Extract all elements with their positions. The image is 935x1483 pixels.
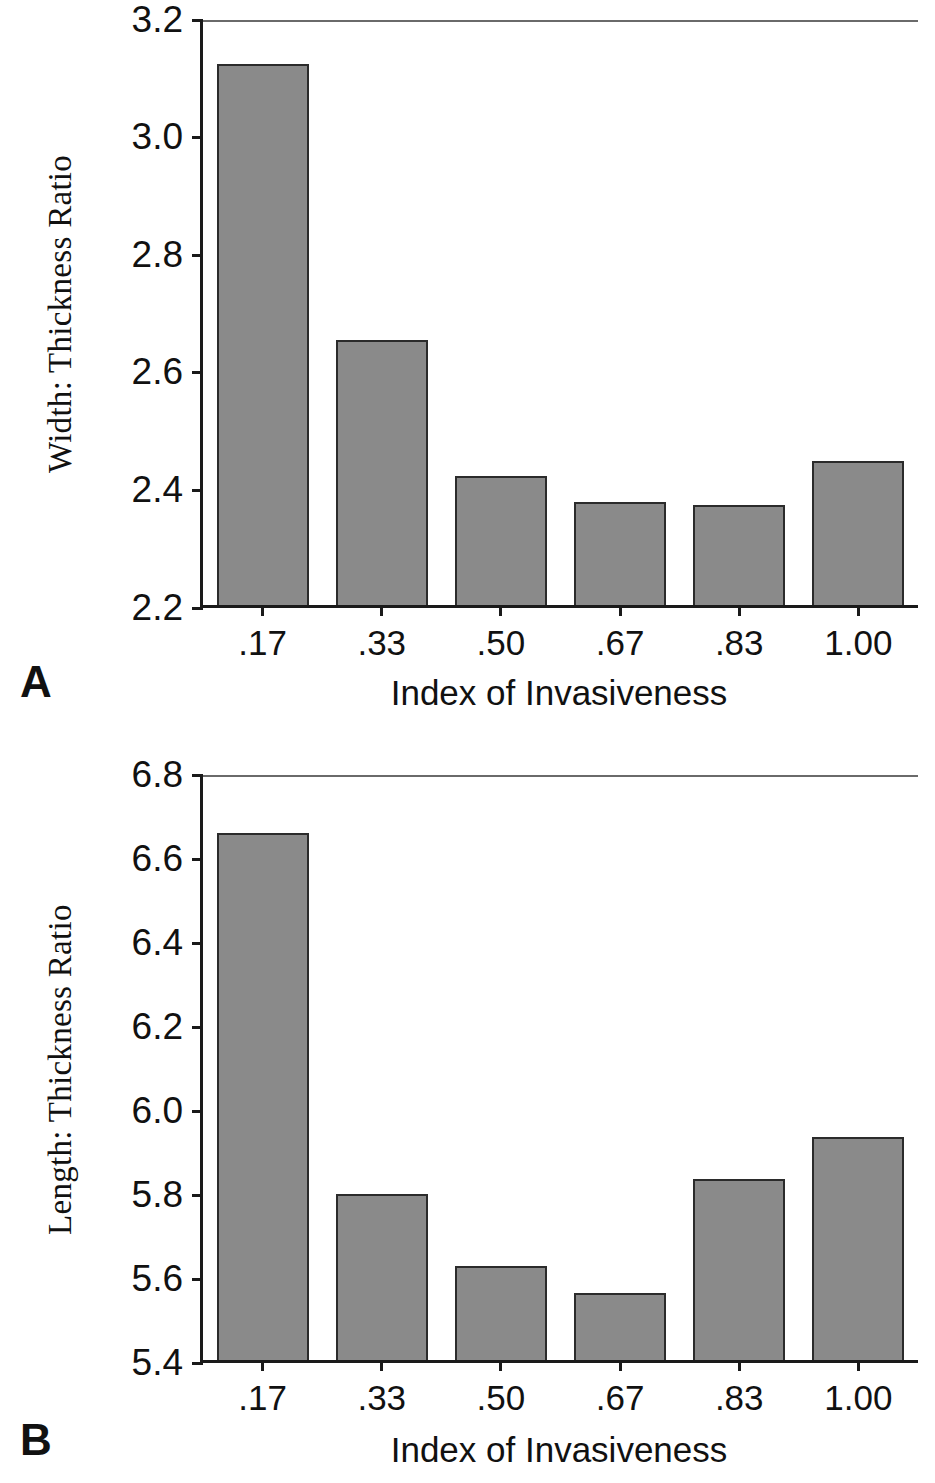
y-axis-tick-label: 3.2 bbox=[132, 1, 192, 38]
x-axis-tick-mark bbox=[499, 605, 502, 616]
bar[interactable] bbox=[574, 502, 666, 605]
panel-letter-b: B bbox=[20, 1418, 52, 1462]
bar-slot bbox=[574, 20, 666, 605]
bar-slot bbox=[336, 775, 428, 1360]
bar-slot bbox=[812, 775, 904, 1360]
bar[interactable] bbox=[336, 1194, 428, 1360]
bar-slot bbox=[217, 775, 309, 1360]
x-axis-tick-mark bbox=[380, 605, 383, 616]
bar[interactable] bbox=[693, 1179, 785, 1360]
panel-a: Width: Thickness Ratio .17.33.50.67.831.… bbox=[0, 0, 935, 740]
y-axis-tick-mark bbox=[192, 1278, 203, 1281]
y-axis-tick-mark bbox=[192, 371, 203, 374]
x-axis-tick-mark bbox=[499, 1360, 502, 1371]
x-axis-tick-label: .83 bbox=[715, 625, 764, 660]
bar[interactable] bbox=[693, 505, 785, 605]
x-axis-label-panel-a: Index of Invasiveness bbox=[200, 673, 918, 713]
bar-slot bbox=[455, 20, 547, 605]
x-axis-tick-mark bbox=[261, 1360, 264, 1371]
x-axis-tick: .33 bbox=[336, 1360, 428, 1415]
bar[interactable] bbox=[455, 1266, 547, 1361]
y-axis-tick-label: 2.6 bbox=[132, 353, 192, 390]
y-axis-tick-label: 5.4 bbox=[132, 1344, 192, 1381]
x-axis-tick: .50 bbox=[455, 605, 547, 660]
x-axis-tick-mark bbox=[261, 605, 264, 616]
x-axis-tick: 1.00 bbox=[812, 1360, 904, 1415]
x-axis-ticks-panel-b: .17.33.50.67.831.00 bbox=[203, 1360, 918, 1415]
bar-group-panel-b bbox=[203, 775, 918, 1360]
y-axis-tick-mark bbox=[192, 1362, 203, 1365]
y-axis-tick-mark bbox=[192, 1110, 203, 1113]
x-axis-tick-label: .50 bbox=[477, 1380, 526, 1415]
y-axis-tick-label: 3.0 bbox=[132, 118, 192, 155]
x-axis-tick: .17 bbox=[217, 605, 309, 660]
bar[interactable] bbox=[574, 1293, 666, 1360]
x-axis-tick: .33 bbox=[336, 605, 428, 660]
y-axis-tick-mark bbox=[192, 489, 203, 492]
x-axis-tick-label: 1.00 bbox=[824, 1380, 892, 1415]
y-axis-tick-mark bbox=[192, 942, 203, 945]
y-axis-tick-mark bbox=[192, 19, 203, 22]
x-axis-tick-label: .83 bbox=[715, 1380, 764, 1415]
y-axis-tick-mark bbox=[192, 254, 203, 257]
bar-slot bbox=[455, 775, 547, 1360]
x-axis-tick-mark bbox=[857, 1360, 860, 1371]
x-axis-tick: 1.00 bbox=[812, 605, 904, 660]
x-axis-tick-label: .67 bbox=[596, 1380, 645, 1415]
bar[interactable] bbox=[217, 64, 309, 605]
x-axis-tick-label: 1.00 bbox=[824, 625, 892, 660]
x-axis-tick: .67 bbox=[574, 1360, 666, 1415]
bar-slot bbox=[336, 20, 428, 605]
x-axis-tick: .83 bbox=[693, 605, 785, 660]
bar-slot bbox=[812, 20, 904, 605]
y-axis-tick-label: 6.6 bbox=[132, 840, 192, 877]
bar[interactable] bbox=[455, 476, 547, 605]
y-axis-tick-label: 6.0 bbox=[132, 1092, 192, 1129]
y-axis-label-panel-b: Length: Thickness Ratio bbox=[42, 904, 79, 1235]
plot-area-panel-b: .17.33.50.67.831.00 5.45.65.86.06.26.46.… bbox=[200, 775, 918, 1363]
bar-slot bbox=[217, 20, 309, 605]
x-axis-tick-label: .33 bbox=[357, 625, 406, 660]
y-axis-tick-mark bbox=[192, 774, 203, 777]
bar[interactable] bbox=[217, 833, 309, 1360]
x-axis-tick-mark bbox=[738, 1360, 741, 1371]
bar[interactable] bbox=[336, 340, 428, 605]
x-axis-tick-label: .33 bbox=[357, 1380, 406, 1415]
panel-letter-a: A bbox=[20, 660, 52, 704]
y-axis-tick-label: 6.2 bbox=[132, 1008, 192, 1045]
x-axis-tick-label: .67 bbox=[596, 625, 645, 660]
x-axis-tick-mark bbox=[619, 605, 622, 616]
x-axis-tick-label: .50 bbox=[477, 625, 526, 660]
x-axis-tick-mark bbox=[738, 605, 741, 616]
y-axis-tick-label: 5.8 bbox=[132, 1176, 192, 1213]
x-axis-tick-label: .17 bbox=[238, 1380, 287, 1415]
y-axis-tick-mark bbox=[192, 607, 203, 610]
y-axis-tick-label: 6.4 bbox=[132, 924, 192, 961]
bar-slot bbox=[693, 20, 785, 605]
x-axis-tick: .67 bbox=[574, 605, 666, 660]
y-axis-tick-label: 6.8 bbox=[132, 756, 192, 793]
y-axis-tick-label: 2.8 bbox=[132, 236, 192, 273]
x-axis-tick: .83 bbox=[693, 1360, 785, 1415]
y-axis-tick-label: 2.2 bbox=[132, 589, 192, 626]
y-axis-tick-mark bbox=[192, 1194, 203, 1197]
y-axis-tick-mark bbox=[192, 1026, 203, 1029]
bar-slot bbox=[574, 775, 666, 1360]
x-axis-ticks-panel-a: .17.33.50.67.831.00 bbox=[203, 605, 918, 660]
panel-b: Length: Thickness Ratio .17.33.50.67.831… bbox=[0, 740, 935, 1483]
y-axis-tick-label: 2.4 bbox=[132, 471, 192, 508]
bar[interactable] bbox=[812, 461, 904, 605]
x-axis-tick-label: .17 bbox=[238, 625, 287, 660]
x-axis-tick-mark bbox=[619, 1360, 622, 1371]
plot-area-panel-a: .17.33.50.67.831.00 2.22.42.62.83.03.2 bbox=[200, 20, 918, 608]
y-axis-tick-mark bbox=[192, 136, 203, 139]
x-axis-tick-mark bbox=[380, 1360, 383, 1371]
y-axis-tick-mark bbox=[192, 858, 203, 861]
bar[interactable] bbox=[812, 1137, 904, 1360]
x-axis-tick: .50 bbox=[455, 1360, 547, 1415]
x-axis-tick-mark bbox=[857, 605, 860, 616]
figure-root: Width: Thickness Ratio .17.33.50.67.831.… bbox=[0, 0, 935, 1483]
bar-slot bbox=[693, 775, 785, 1360]
y-axis-tick-label: 5.6 bbox=[132, 1260, 192, 1297]
bar-group-panel-a bbox=[203, 20, 918, 605]
